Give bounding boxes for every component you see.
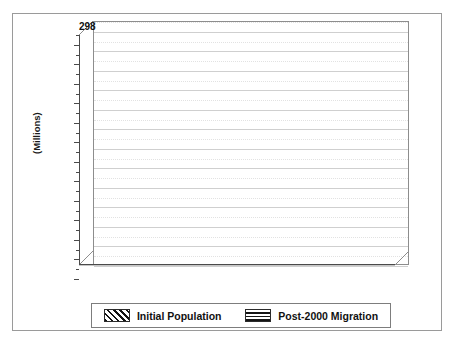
y-tick-mark xyxy=(74,162,79,163)
y-tick-mark xyxy=(76,191,79,192)
y-tick-mark xyxy=(74,201,79,202)
chart-frame: (Millions) 298 Initial Population xyxy=(12,13,442,331)
y-tick-mark xyxy=(76,55,79,56)
y-tick-mark xyxy=(76,269,79,270)
plot-floor xyxy=(79,265,395,279)
y-tick-mark xyxy=(74,123,79,124)
y-axis-title: (Millions) xyxy=(31,112,42,154)
y-tick-mark xyxy=(74,279,79,280)
y-tick-mark xyxy=(74,84,79,85)
y-tick-mark xyxy=(76,94,79,95)
diagonal-hatch-icon xyxy=(104,309,130,322)
y-tick-mark xyxy=(74,103,79,104)
y-tick-mark xyxy=(76,172,79,173)
y-tick-mark xyxy=(76,152,79,153)
clipped-caption-top xyxy=(0,0,457,6)
legend-label-initial-population: Initial Population xyxy=(137,310,222,322)
bars-layer xyxy=(93,21,409,265)
clipped-caption-bottom xyxy=(0,340,457,347)
y-tick-mark xyxy=(76,35,79,36)
plot-left-wall xyxy=(79,35,93,279)
horizontal-stripe-icon xyxy=(245,309,271,322)
y-tick-mark xyxy=(74,64,79,65)
plateau-annotation: 298 xyxy=(79,21,96,32)
y-tick-mark xyxy=(76,230,79,231)
plot-area: 298 xyxy=(79,21,409,279)
legend-item-initial-population: Initial Population xyxy=(104,309,222,322)
y-tick-mark xyxy=(74,240,79,241)
y-tick-mark xyxy=(74,220,79,221)
chart-legend: Initial Population Post-2000 Migration xyxy=(91,303,391,328)
legend-item-post-2000-migration: Post-2000 Migration xyxy=(245,309,378,322)
y-tick-mark xyxy=(76,113,79,114)
y-axis-line xyxy=(79,35,80,265)
y-tick-mark xyxy=(76,74,79,75)
y-tick-mark xyxy=(74,181,79,182)
y-tick-mark xyxy=(74,142,79,143)
y-tick-mark xyxy=(76,250,79,251)
y-tick-mark xyxy=(74,45,79,46)
legend-label-post-2000-migration: Post-2000 Migration xyxy=(278,310,378,322)
y-tick-mark xyxy=(76,211,79,212)
y-tick-mark xyxy=(74,259,79,260)
gridline-major xyxy=(94,266,408,267)
figure-page: (Millions) 298 Initial Population xyxy=(0,0,457,347)
y-tick-mark xyxy=(76,133,79,134)
